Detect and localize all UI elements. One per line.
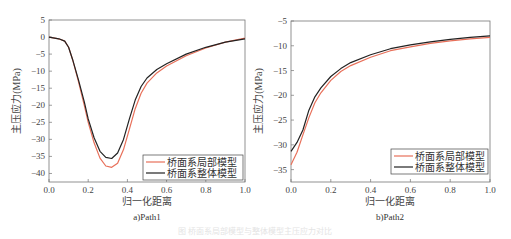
chart-panel-path1: 50−5−10−15−20−25−30−35−40 0.00.20.40.60.…	[10, 15, 251, 222]
x-tick-label: 0.6	[405, 185, 417, 195]
x-tick-label: 0.8	[445, 185, 457, 195]
x-tick-label: 0.0	[285, 185, 297, 195]
y-tick-label: −5	[277, 16, 287, 26]
x-tick-label: 0.2	[325, 185, 336, 195]
y-tick-label: −25	[273, 115, 288, 125]
legend-label-global: 桥面系整体模型	[167, 167, 237, 179]
y-axis-label: 主压应力(MPa)	[252, 68, 265, 134]
panel-caption: b)Path2	[376, 212, 404, 222]
y-tick-label: −5	[35, 49, 45, 59]
x-tick-label: 0.0	[43, 185, 55, 195]
x-axis-ticks: 0.00.20.40.60.81.0	[43, 179, 251, 195]
y-tick-label: −25	[31, 117, 46, 127]
y-tick-label: −30	[31, 134, 46, 144]
figure: 50−5−10−15−20−25−30−35−40 0.00.20.40.60.…	[0, 0, 511, 239]
x-tick-label: 0.4	[122, 185, 134, 195]
y-tick-label: −20	[273, 90, 288, 100]
figure-caption-faint: 图 桥面系局部模型与整体模型主压应力对比	[178, 226, 332, 236]
y-tick-label: 0	[41, 32, 46, 42]
y-tick-label: −10	[31, 66, 46, 76]
x-axis-label: 归一化距离	[365, 195, 415, 207]
y-tick-label: −30	[273, 140, 288, 150]
x-axis-label: 归一化距离	[122, 195, 172, 207]
legend-label-global: 桥面系整体模型	[415, 161, 485, 173]
legend-label-local: 桥面系局部模型	[167, 156, 237, 168]
legend-label-local: 桥面系局部模型	[415, 150, 485, 162]
series-local-model-line	[49, 37, 245, 167]
y-tick-label: 5	[41, 15, 46, 25]
legend: 桥面系局部模型 桥面系整体模型	[143, 155, 243, 180]
x-tick-label: 1.0	[239, 185, 251, 195]
y-tick-label: −15	[31, 83, 46, 93]
x-tick-label: 0.8	[200, 185, 212, 195]
y-tick-label: −20	[31, 100, 46, 110]
legend: 桥面系局部模型 桥面系整体模型	[391, 149, 488, 174]
x-axis-ticks: 0.00.20.40.60.81.0	[285, 179, 496, 195]
series-local-model-line	[291, 37, 490, 164]
y-axis-label: 主压应力(MPa)	[10, 68, 23, 134]
chart-panel-path2: −5−10−15−20−25−30−35 0.00.20.40.60.81.0 …	[252, 16, 496, 222]
series-global-model-line	[49, 37, 245, 158]
x-tick-label: 0.4	[365, 185, 377, 195]
y-tick-label: −35	[31, 151, 46, 161]
panel-caption: a)Path1	[133, 212, 161, 222]
x-tick-label: 1.0	[484, 185, 496, 195]
y-tick-label: −35	[273, 165, 288, 175]
x-tick-label: 0.6	[161, 185, 173, 195]
y-tick-label: −15	[273, 66, 288, 76]
y-tick-label: −10	[273, 41, 288, 51]
x-tick-label: 0.2	[83, 185, 94, 195]
y-tick-label: −40	[31, 168, 46, 178]
